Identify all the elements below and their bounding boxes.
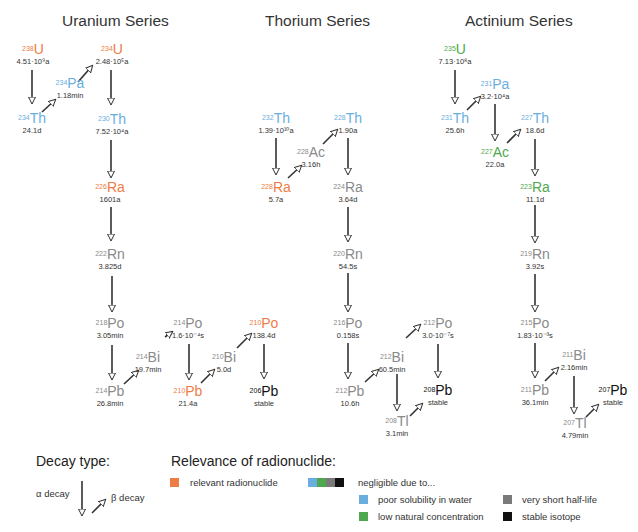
relevance-title: Relevance of radionuclide: bbox=[171, 453, 336, 469]
nuclide-rn219: 219Rn3.92s bbox=[520, 247, 550, 271]
nuclide-rn222: 222Rn3.825d bbox=[95, 247, 125, 271]
low-concentration-label: low natural concentration bbox=[378, 511, 484, 522]
nuclide-pb210: 210Pb21.4a bbox=[174, 384, 203, 408]
nuclide-th228: 228Th1.90a bbox=[334, 111, 362, 135]
nuclide-th231: 231Th25.6h bbox=[441, 111, 469, 135]
nuclide-tl207: 207Tl4.79min bbox=[562, 416, 589, 440]
nuclide-th227: 227Th18.6d bbox=[521, 111, 549, 135]
nuclide-pb214: 214Pb26.8min bbox=[96, 384, 125, 408]
nuclide-tl208: 208Tl3.1min bbox=[385, 414, 408, 438]
nuclide-rn220: 220Rn54.5s bbox=[333, 247, 363, 271]
negligible-swatch-blue bbox=[308, 478, 317, 487]
nuclide-u235: 235U7.13·10⁸a bbox=[439, 42, 472, 66]
short-half-life-swatch bbox=[503, 495, 512, 504]
nuclide-u238: 238U4.51·10⁹a bbox=[17, 42, 50, 66]
nuclide-pb211: 211Pb36.1min bbox=[521, 383, 549, 407]
nuclide-ac227: 227Ac22.0a bbox=[481, 145, 509, 169]
relevant-label: relevant radionuclide bbox=[190, 477, 278, 488]
nuclide-bi212: 212Bi60.5min bbox=[379, 350, 406, 374]
nuclide-ra228: 228Ra5.7a bbox=[261, 180, 291, 204]
low-concentration-swatch bbox=[359, 512, 368, 521]
beta-decay-label: β decay bbox=[111, 492, 144, 503]
nuclide-pa234: 234Pa1.18min bbox=[56, 76, 85, 100]
nuclide-th234: 234Th24.1d bbox=[18, 111, 46, 135]
nuclide-ra226: 226Ra1601a bbox=[95, 180, 125, 204]
nuclide-po216: 216Po0.158s bbox=[334, 316, 363, 340]
nuclide-th232: 232Th1.39·10¹⁰a bbox=[258, 111, 293, 135]
nuclide-pb208: 208Pbstable bbox=[424, 383, 453, 407]
negligible-swatch-black bbox=[335, 478, 344, 487]
short-half-life-label: very short half-life bbox=[522, 494, 597, 505]
stable-isotope-swatch bbox=[503, 512, 512, 521]
nuclide-ra224: 224Ra3.64d bbox=[333, 180, 363, 204]
nuclide-u234: 234U2.48·10⁵a bbox=[96, 42, 129, 66]
alpha-decay-label: α decay bbox=[36, 488, 69, 499]
decay-type-title: Decay type: bbox=[36, 453, 110, 469]
nuclide-ra223: 223Ra11.1d bbox=[520, 180, 550, 204]
nuclide-pb207: 207Pbstable bbox=[599, 383, 628, 407]
nuclide-po210: 210Po138.4d bbox=[250, 316, 279, 340]
nuclide-bi214: 214Bi19.7min bbox=[135, 350, 162, 374]
nuclide-pb212: 212Pb10.6h bbox=[336, 384, 365, 408]
nuclide-po214: 214Po1.6·10⁻⁴s bbox=[172, 316, 204, 340]
nuclide-po218: 218Po3.05min bbox=[96, 316, 125, 340]
poor-solubility-swatch bbox=[359, 495, 368, 504]
nuclide-po212: 212Po3.0·10⁻⁷s bbox=[422, 316, 454, 340]
nuclide-pb206: 206Pbstable bbox=[250, 384, 279, 408]
negligible-label: negligible due to... bbox=[358, 477, 435, 488]
stable-isotope-label: stable isotope bbox=[522, 511, 581, 522]
nuclide-th230: 230Th7.52·10⁴a bbox=[96, 112, 129, 136]
negligible-swatch-green bbox=[317, 478, 326, 487]
relevant-swatch bbox=[170, 478, 179, 487]
nuclide-po215: 215Po1.83·10⁻³s bbox=[517, 316, 553, 340]
nuclide-bi211: 211Bi2.16min bbox=[561, 348, 588, 372]
negligible-swatch-gray bbox=[326, 478, 335, 487]
nuclide-pa231: 231Pa3.2·10⁴a bbox=[481, 77, 510, 101]
nuclide-ac228: 228Ac3.16h bbox=[297, 145, 325, 169]
nuclide-bi210: 210Bi5.0d bbox=[212, 350, 236, 374]
poor-solubility-label: poor solubility in water bbox=[378, 494, 472, 505]
